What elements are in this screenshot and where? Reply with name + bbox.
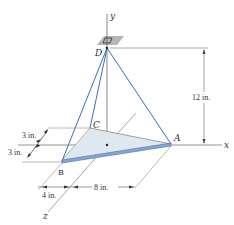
b-offset-label: 3 in. bbox=[8, 148, 22, 157]
z-axis-label: z bbox=[42, 211, 48, 221]
x-axis-label: x bbox=[224, 140, 229, 150]
point-c-label: C bbox=[93, 120, 100, 130]
arrow-icon bbox=[64, 186, 69, 189]
height-dimension-label: 12 in. bbox=[192, 93, 210, 102]
a-x-dimension-label: 8 in. bbox=[94, 183, 108, 192]
arrow-icon bbox=[129, 186, 134, 189]
arrow-down-icon bbox=[203, 139, 206, 144]
arrow-up-icon bbox=[203, 49, 206, 54]
point-d-label: D bbox=[94, 48, 102, 58]
ceiling-support bbox=[97, 36, 124, 45]
triangular-plate bbox=[62, 128, 171, 160]
origin-point bbox=[106, 144, 108, 146]
arrow-icon bbox=[42, 186, 47, 189]
arrow-icon bbox=[73, 186, 78, 189]
diagram-canvas: y x z D C A B 12 in. 3 in. 3 in. 4 in. 8… bbox=[0, 0, 234, 225]
cable-da bbox=[107, 48, 171, 144]
point-b-label: B bbox=[58, 168, 64, 177]
c-offset-label: 3 in. bbox=[22, 131, 36, 140]
arrow-icon bbox=[44, 129, 48, 134]
point-a-label: A bbox=[173, 133, 181, 143]
a-projection-line bbox=[135, 146, 171, 188]
b-x-dimension-label: 4 in. bbox=[42, 191, 56, 200]
y-axis-label: y bbox=[109, 11, 116, 21]
point-d bbox=[106, 47, 109, 50]
cable-dc bbox=[90, 48, 107, 128]
